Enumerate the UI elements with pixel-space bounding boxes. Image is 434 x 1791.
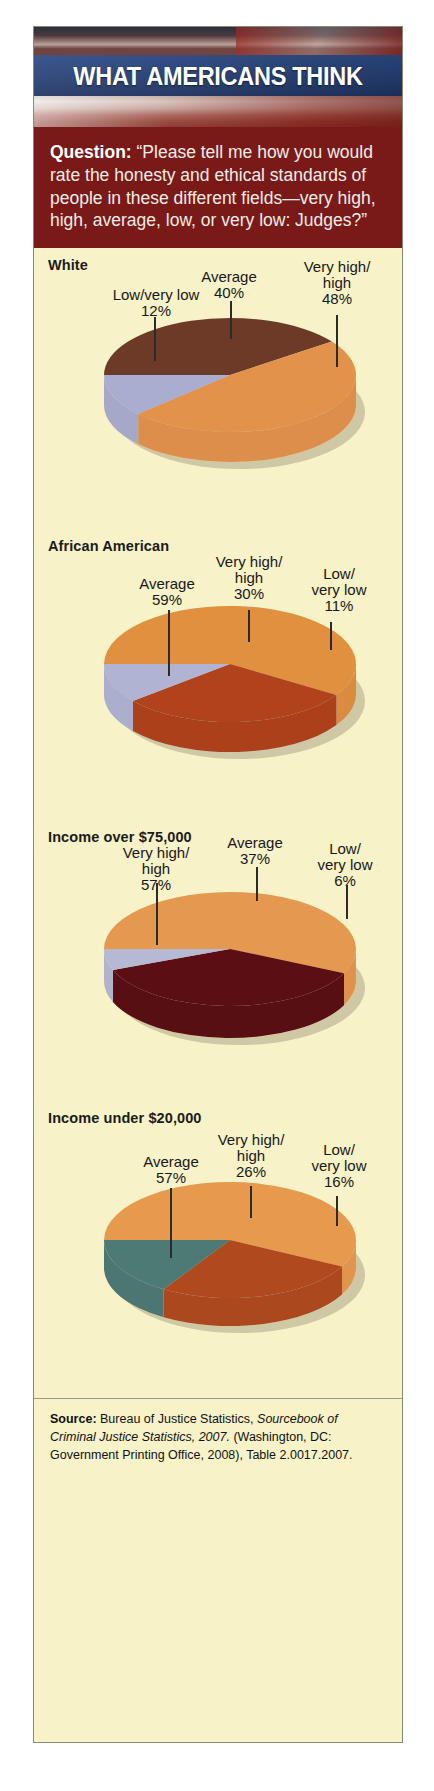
leader-line	[168, 610, 170, 676]
pie-label-value: 6%	[290, 873, 400, 889]
leader-line	[346, 885, 348, 919]
pie-label: Low/very low6%	[290, 841, 400, 889]
pie-label: Average40%	[174, 269, 284, 301]
pie-label-name: Low/very low	[290, 841, 400, 873]
page-title: WHAT AMERICANS THINK	[45, 57, 391, 95]
leader-line	[156, 883, 158, 945]
source-label: Source:	[50, 1412, 97, 1426]
leader-line	[248, 610, 250, 642]
question-block: Question: “Please tell me how you would …	[34, 127, 402, 248]
pie-label-name: Very high/high	[96, 845, 216, 877]
leader-line	[250, 1186, 252, 1218]
leader-line	[336, 315, 338, 367]
leader-line	[256, 867, 258, 901]
source-note: Source: Bureau of Justice Statistics, So…	[34, 1398, 402, 1474]
pie-label-name: Average	[174, 269, 284, 285]
pie-label-name: Low/very low	[284, 566, 394, 598]
pie-chart: Average59%Very high/high30%Low/very low1…	[34, 552, 403, 820]
question-label: Question:	[50, 142, 132, 162]
pie-chart: Very high/high57%Average37%Low/very low6…	[34, 843, 403, 1101]
pie-chart: Average57%Very high/high26%Low/very low1…	[34, 1124, 403, 1392]
charts-container: WhiteLow/very low12%Average40%Very high/…	[34, 248, 402, 1392]
source-text-1: Bureau of Justice Statistics,	[97, 1412, 258, 1426]
leader-line	[330, 622, 332, 650]
pie-label: Low/very low16%	[284, 1142, 394, 1190]
pie-label-value: 40%	[174, 285, 284, 301]
pie-label-value: 16%	[284, 1174, 394, 1190]
pie-label: Low/very low11%	[284, 566, 394, 614]
pie-label-value: 48%	[282, 291, 392, 307]
chart-title: African American	[34, 529, 402, 554]
leader-line	[154, 317, 156, 361]
pie-label-value: 12%	[86, 303, 226, 319]
chart-section-2: African AmericanAverage59%Very high/high…	[34, 529, 402, 820]
header-banner: WHAT AMERICANS THINK	[34, 27, 402, 127]
pie-label-name: Low/very low	[284, 1142, 394, 1174]
chart-section-1: WhiteLow/very low12%Average40%Very high/…	[34, 248, 402, 529]
chart-title: Income under $20,000	[34, 1101, 402, 1126]
pie-label-value: 11%	[284, 598, 394, 614]
flag-image-top	[34, 27, 402, 57]
flag-image-bottom	[34, 96, 402, 127]
chart-section-4: Income under $20,000Average57%Very high/…	[34, 1101, 402, 1392]
pie-chart: Low/very low12%Average40%Very high/high4…	[34, 271, 403, 529]
leader-line	[336, 1196, 338, 1226]
leader-line	[230, 301, 232, 339]
pie-label: Very high/high48%	[282, 259, 392, 307]
leader-line	[170, 1188, 172, 1258]
pie-label-name: Very high/high	[282, 259, 392, 291]
infographic-card: WHAT AMERICANS THINK Question: “Please t…	[33, 26, 403, 1743]
chart-section-3: Income over $75,000Very high/high57%Aver…	[34, 820, 402, 1101]
